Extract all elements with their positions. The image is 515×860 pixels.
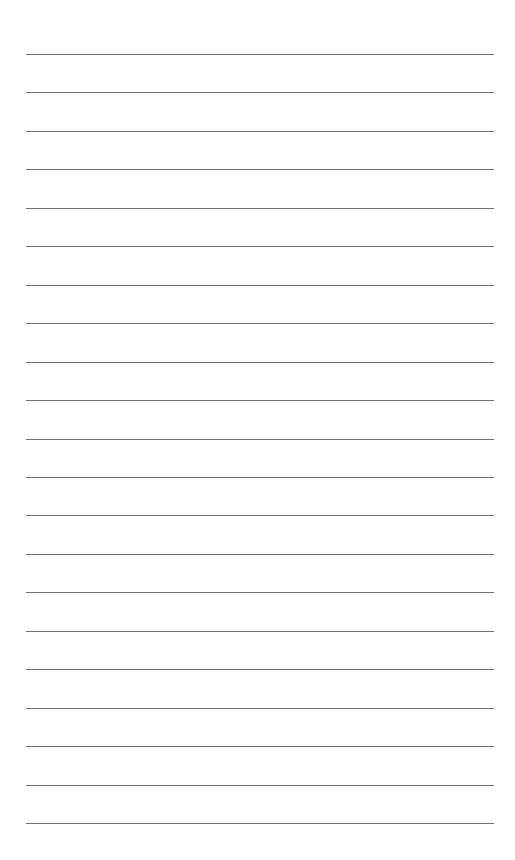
ruled-line (26, 708, 494, 709)
ruled-line (26, 823, 494, 824)
ruled-line (26, 54, 494, 55)
ruled-line (26, 554, 494, 555)
ruled-line (26, 208, 494, 209)
ruled-line (26, 515, 494, 516)
ruled-line (26, 631, 494, 632)
ruled-line (26, 131, 494, 132)
ruled-line (26, 439, 494, 440)
ruled-line (26, 246, 494, 247)
ruled-line (26, 362, 494, 363)
lined-paper-sheet (0, 0, 515, 860)
ruled-line (26, 323, 494, 324)
ruled-line (26, 746, 494, 747)
ruled-line (26, 592, 494, 593)
ruled-line (26, 785, 494, 786)
ruled-line (26, 400, 494, 401)
ruled-line (26, 169, 494, 170)
ruled-line (26, 285, 494, 286)
ruled-line (26, 92, 494, 93)
ruled-line (26, 477, 494, 478)
ruled-line (26, 669, 494, 670)
